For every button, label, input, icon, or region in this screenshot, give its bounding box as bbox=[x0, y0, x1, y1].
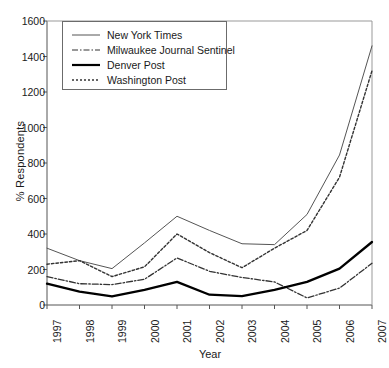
y-tick-label: 1600 bbox=[15, 15, 45, 27]
y-tick-label: 400 bbox=[15, 228, 45, 240]
legend-label: New York Times bbox=[107, 29, 182, 41]
y-tick-label: 0 bbox=[15, 299, 45, 311]
y-tick-label: 800 bbox=[15, 157, 45, 169]
legend-item[interactable]: Washington Post bbox=[63, 72, 226, 87]
series-line-washington-post bbox=[47, 71, 372, 277]
x-tick-label: 1999 bbox=[116, 320, 128, 343]
legend-swatch-washington-post bbox=[71, 74, 101, 86]
y-tick-label: 600 bbox=[15, 193, 45, 205]
legend-swatch-milwaukee-journal-sentinel bbox=[71, 44, 101, 56]
legend-label: Denver Post bbox=[107, 59, 165, 71]
legend-swatch-denver-post bbox=[71, 59, 101, 71]
x-tick-label: 2003 bbox=[246, 320, 258, 343]
x-tick-label: 2002 bbox=[214, 320, 226, 343]
series-line-milwaukee-journal-sentinel bbox=[47, 258, 372, 298]
x-tick-label: 1998 bbox=[84, 320, 96, 343]
x-tick-label: 2000 bbox=[149, 320, 161, 343]
legend-item[interactable]: New York Times bbox=[63, 27, 226, 42]
y-tick-label: 1400 bbox=[15, 51, 45, 63]
x-tick-label: 2004 bbox=[279, 320, 291, 343]
x-tick-label: 2005 bbox=[311, 320, 323, 343]
x-axis-label: Year bbox=[45, 348, 375, 360]
legend-label: Milwaukee Journal Sentinel bbox=[107, 44, 235, 56]
x-tick-label: 2001 bbox=[181, 320, 193, 343]
legend-swatch-new-york-times bbox=[71, 29, 101, 41]
y-tick-label: 200 bbox=[15, 264, 45, 276]
legend-item[interactable]: Denver Post bbox=[63, 57, 226, 72]
y-tick-label: 1200 bbox=[15, 86, 45, 98]
x-tick-label: 2006 bbox=[344, 320, 356, 343]
chart-figure: % Respondents 02004006008001000120014001… bbox=[0, 0, 389, 368]
chart-legend: New York Times Milwaukee Journal Sentine… bbox=[62, 21, 227, 90]
x-tick-label: 1997 bbox=[51, 320, 63, 343]
legend-label: Washington Post bbox=[107, 74, 186, 86]
legend-item[interactable]: Milwaukee Journal Sentinel bbox=[63, 42, 226, 57]
x-tick-label: 2007 bbox=[376, 320, 388, 343]
y-tick-label: 1000 bbox=[15, 122, 45, 134]
